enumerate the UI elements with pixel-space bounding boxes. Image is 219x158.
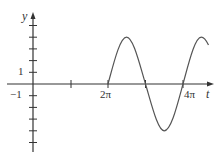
x-tick-label-2pi: 2π <box>100 89 111 100</box>
y-axis-arrow-icon <box>31 12 36 19</box>
sine-graph <box>0 0 219 158</box>
x-axis-arrow-icon <box>207 82 214 87</box>
y-tick-label-1: 1 <box>18 66 24 77</box>
y-axis-label: y <box>22 10 27 22</box>
y-tick-label-minus-1: −1 <box>10 89 22 100</box>
x-tick-label-4pi: 4π <box>184 89 195 100</box>
x-axis-label: t <box>206 88 209 100</box>
